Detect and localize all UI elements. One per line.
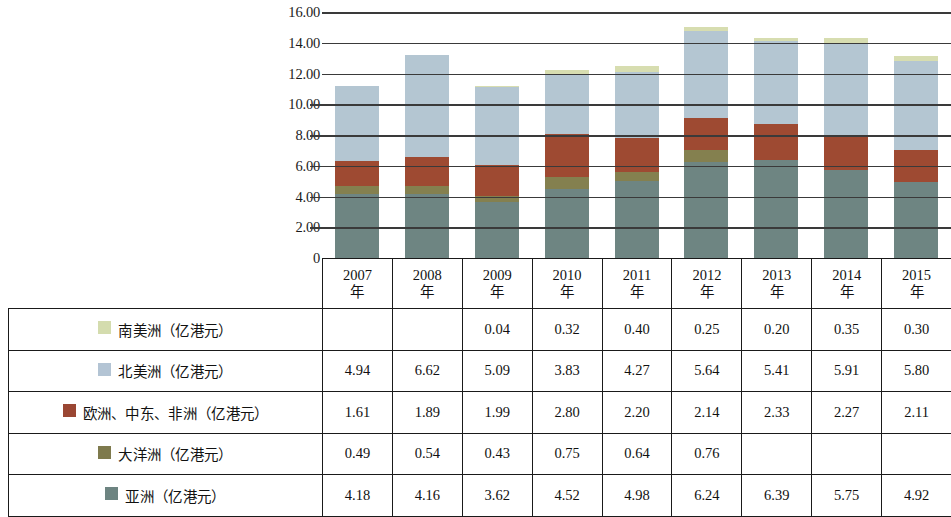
bar-stack	[754, 38, 798, 258]
legend-color-swatch	[98, 446, 111, 459]
table-cell-value: 0.32	[532, 309, 602, 351]
bar-segment	[475, 165, 519, 196]
table-cell-value: 4.92	[882, 475, 951, 517]
table-cell-value: 0.75	[532, 433, 602, 475]
bar-segment	[824, 135, 868, 170]
table-cell-value: 0.40	[602, 309, 672, 351]
bar-segment	[615, 172, 659, 182]
y-axis-tickmark	[310, 166, 322, 168]
table-header-year: 2012年	[672, 259, 742, 309]
bar-segment	[894, 182, 938, 258]
table-header-blank	[9, 259, 323, 309]
gridline	[322, 197, 951, 199]
year-unit: 年	[882, 284, 951, 301]
table-cell-value: 0.64	[602, 433, 672, 475]
bar-segment	[405, 157, 449, 186]
table-cell-value: 0.25	[672, 309, 742, 351]
bar-segment	[335, 186, 379, 194]
legend-color-swatch	[98, 321, 111, 334]
year-value: 2011	[603, 267, 672, 284]
year-value: 2014	[812, 267, 881, 284]
table-cell-value	[882, 433, 951, 475]
bar-segment	[684, 150, 728, 162]
table-cell-value: 0.43	[462, 433, 532, 475]
table-cell-value: 0.54	[392, 433, 462, 475]
bar-segment	[475, 87, 519, 165]
bar-stack	[684, 27, 728, 258]
year-unit: 年	[672, 284, 741, 301]
table-cell-value: 1.61	[323, 392, 393, 434]
table-header-row: 2007年2008年2009年2010年2011年2012年2013年2014年…	[9, 259, 951, 309]
gridline	[322, 74, 951, 76]
y-axis-tick-label: 12.00	[268, 67, 320, 82]
table-cell-value: 4.52	[532, 475, 602, 517]
table-cell-value: 5.64	[672, 350, 742, 392]
legend-label-text: 大洋洲（亿港元）	[118, 447, 232, 463]
bar-segment	[824, 44, 868, 135]
bar-stack	[824, 38, 868, 258]
table-cell-value: 5.91	[812, 350, 882, 392]
gridline	[322, 135, 951, 137]
year-unit: 年	[742, 284, 811, 301]
table-cell-value: 0.04	[462, 309, 532, 351]
legend-label-text: 亚洲（亿港元）	[125, 489, 225, 505]
legend-row-label: 北美洲（亿港元）	[9, 350, 323, 392]
table-cell-value: 1.89	[392, 392, 462, 434]
year-value: 2009	[463, 267, 532, 284]
year-value: 2007	[323, 267, 392, 284]
legend-label-text: 南美洲（亿港元）	[118, 323, 232, 339]
gridline	[322, 104, 951, 106]
year-value: 2008	[393, 267, 462, 284]
bar-segment	[684, 118, 728, 151]
table-header-year: 2010年	[532, 259, 602, 309]
bar-stack	[615, 66, 659, 258]
table-header-year: 2013年	[742, 259, 812, 309]
table-cell-value: 6.24	[672, 475, 742, 517]
year-unit: 年	[812, 284, 881, 301]
table-cell-value: 0.49	[323, 433, 393, 475]
table-cell-value: 5.09	[462, 350, 532, 392]
gridline	[322, 43, 951, 45]
table-cell-value: 2.33	[742, 392, 812, 434]
year-unit: 年	[533, 284, 602, 301]
legend-color-swatch	[63, 404, 76, 417]
data-table: 2007年2008年2009年2010年2011年2012年2013年2014年…	[8, 258, 951, 517]
table-cell-value: 2.14	[672, 392, 742, 434]
bar-segment	[475, 202, 519, 258]
legend-color-swatch	[105, 487, 118, 500]
year-value: 2013	[742, 267, 811, 284]
table-row: 亚洲（亿港元）4.184.163.624.524.986.246.395.754…	[9, 475, 951, 517]
table-cell-value: 5.80	[882, 350, 951, 392]
table-cell-value: 4.98	[602, 475, 672, 517]
table-cell-value: 0.76	[672, 433, 742, 475]
bar-segment	[615, 181, 659, 258]
table-cell-value: 2.20	[602, 392, 672, 434]
table-header-year: 2014年	[812, 259, 882, 309]
gridline	[322, 166, 951, 168]
bar-stack	[335, 86, 379, 258]
table-cell-value: 1.99	[462, 392, 532, 434]
table-header-year: 2011年	[602, 259, 672, 309]
table-cell-value: 2.11	[882, 392, 951, 434]
bar-segment	[545, 189, 589, 258]
table-row: 大洋洲（亿港元）0.490.540.430.750.640.76	[9, 433, 951, 475]
table-cell-value: 4.16	[392, 475, 462, 517]
table-cell-value	[392, 309, 462, 351]
table-header-year: 2008年	[392, 259, 462, 309]
bar-segment	[405, 186, 449, 194]
data-table-container: 2007年2008年2009年2010年2011年2012年2013年2014年…	[0, 258, 951, 517]
y-axis-tick-label: 16.00	[268, 5, 320, 20]
table-cell-value: 5.41	[742, 350, 812, 392]
y-axis-tickmark	[310, 104, 322, 106]
table-cell-value	[742, 433, 812, 475]
legend-color-swatch	[98, 363, 111, 376]
bar-segment	[545, 134, 589, 177]
bar-segment	[824, 170, 868, 258]
gridline	[322, 227, 951, 229]
table-cell-value: 6.62	[392, 350, 462, 392]
table-row: 南美洲（亿港元）0.040.320.400.250.200.350.30	[9, 309, 951, 351]
table-cell-value: 0.30	[882, 309, 951, 351]
bar-segment	[545, 177, 589, 189]
bar-segment	[335, 194, 379, 258]
table-cell-value: 4.18	[323, 475, 393, 517]
